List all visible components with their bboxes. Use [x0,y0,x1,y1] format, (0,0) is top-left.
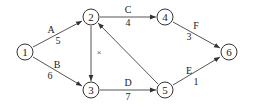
edge-label-3: 3 [187,31,192,42]
edge-label-E: E [186,65,192,76]
edge-5-2 [98,23,158,84]
node-4: 4 [157,9,173,25]
edge-label-5: 5 [56,35,61,46]
svg-text:5: 5 [162,84,168,96]
node-2: 2 [83,9,99,25]
dummy-mark: × [97,48,102,57]
edge-label-6: 6 [48,70,53,81]
svg-text:1: 1 [22,46,28,58]
node-6: 6 [221,44,237,60]
edge-label-D: D [124,77,131,88]
svg-text:3: 3 [88,84,94,96]
edge-label-C: C [125,4,132,15]
node-5: 5 [157,82,173,98]
node-3: 3 [83,82,99,98]
svg-text:2: 2 [88,11,94,23]
edge-label-F: F [193,20,199,31]
network-diagram: A 5 B 6 C 4 D 7 F 3 E 1 × 1 2 3 4 5 6 [0,0,256,107]
edge-label-4: 4 [126,17,131,28]
edge-label-B: B [54,59,61,70]
svg-text:4: 4 [162,11,168,23]
edge-label-A: A [47,24,55,35]
node-1: 1 [17,44,33,60]
svg-text:6: 6 [226,46,232,58]
edge-label-1: 1 [194,76,199,87]
edge-label-7: 7 [126,91,131,102]
